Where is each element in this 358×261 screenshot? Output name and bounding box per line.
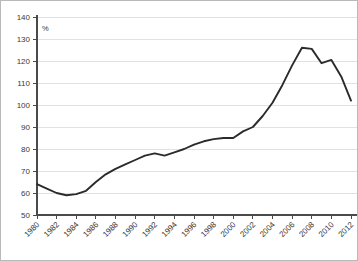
y-tick-label: 110: [17, 79, 30, 88]
x-tick-label: 2012: [336, 220, 355, 239]
y-axis-ticks: 5060708090100110120130140: [17, 13, 37, 220]
x-tick-label: 1998: [199, 220, 218, 239]
x-tick-label: 1980: [22, 220, 41, 239]
x-tick-label: 2006: [278, 220, 297, 239]
line-chart-figure: 5060708090100110120130140%19801982198419…: [0, 0, 358, 261]
x-tick-label: 1984: [62, 220, 81, 239]
x-tick-label: 1992: [140, 220, 159, 239]
y-tick-label: 70: [21, 167, 30, 176]
x-tick-label: 2000: [219, 220, 238, 239]
x-axis-ticks: 1980198219841986198819901992199419961998…: [22, 215, 355, 239]
x-tick-label: 1990: [121, 220, 140, 239]
x-tick-label: 2004: [258, 220, 277, 239]
y-tick-label: 80: [21, 145, 30, 154]
x-tick-label: 2010: [317, 220, 336, 239]
y-tick-label: 90: [21, 123, 30, 132]
x-tick-label: 1986: [81, 220, 100, 239]
y-tick-label: 60: [21, 189, 30, 198]
x-tick-label: 1988: [101, 220, 120, 239]
x-tick-label: 2002: [238, 220, 257, 239]
x-tick-label: 1994: [160, 220, 179, 239]
y-tick-label: 130: [17, 35, 31, 44]
x-tick-label: 2008: [297, 220, 316, 239]
chart-canvas: 5060708090100110120130140%19801982198419…: [1, 1, 358, 261]
y-tick-label: 140: [17, 13, 31, 22]
x-tick-label: 1982: [42, 220, 61, 239]
data-series-line: [37, 48, 351, 195]
x-tick-label: 1996: [179, 220, 198, 239]
y-tick-label: 120: [17, 57, 31, 66]
y-axis-unit-label: %: [42, 24, 49, 33]
y-tick-label: 100: [17, 101, 31, 110]
gridlines: [37, 17, 357, 215]
y-tick-label: 50: [21, 211, 30, 220]
